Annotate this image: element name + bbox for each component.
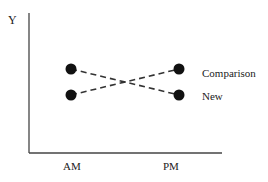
series-label-new: New — [202, 91, 223, 102]
x-tick-am: AM — [63, 161, 81, 172]
series-label-comparison: Comparison — [202, 68, 256, 79]
y-axis-label: Y — [8, 14, 17, 26]
data-point-new-am — [66, 64, 77, 75]
data-point-comparison-pm — [174, 64, 185, 75]
data-point-new-pm — [174, 90, 185, 101]
interaction-chart — [0, 0, 268, 182]
x-tick-pm: PM — [163, 161, 179, 172]
series-layer — [66, 64, 185, 101]
data-point-comparison-am — [66, 90, 77, 101]
